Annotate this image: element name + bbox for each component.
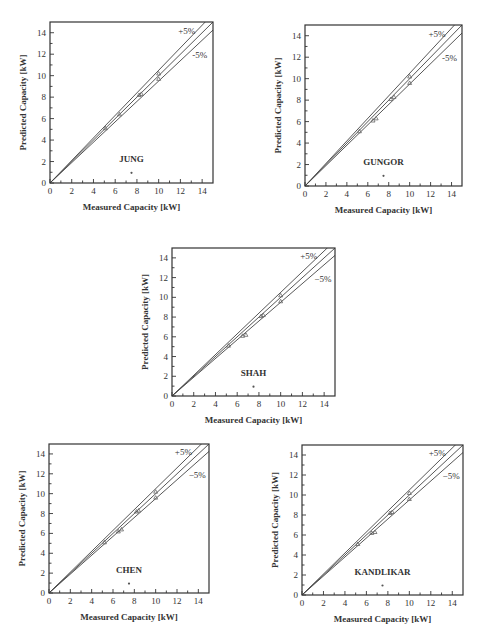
stray-point bbox=[381, 584, 383, 586]
upper-band-label: +5% bbox=[429, 448, 447, 458]
x-tick-label: 8 bbox=[386, 598, 391, 608]
x-axis-label: Measured Capacity [kW] bbox=[334, 614, 431, 624]
chart-svg: 0246810121402468101214Measured Capacity … bbox=[0, 0, 479, 638]
y-tick-label: 10 bbox=[289, 490, 299, 500]
y-tick-label: 6 bbox=[294, 530, 299, 540]
data-point bbox=[373, 530, 377, 534]
x-tick-label: 0 bbox=[300, 598, 305, 608]
chart-panel-kandlikar: 0246810121402468101214Measured Capacity … bbox=[0, 0, 479, 638]
y-tick-label: 8 bbox=[294, 510, 299, 520]
x-tick-label: 2 bbox=[321, 598, 326, 608]
data-point bbox=[390, 510, 394, 514]
x-tick-label: 12 bbox=[426, 598, 435, 608]
y-axis-label: Predicted Capacity [kW] bbox=[270, 472, 280, 568]
y-tick-label: 12 bbox=[289, 470, 298, 480]
y-tick-label: 2 bbox=[294, 570, 299, 580]
x-tick-label: 6 bbox=[364, 598, 369, 608]
x-tick-label: 10 bbox=[405, 598, 415, 608]
correlation-name: KANDLIKAR bbox=[354, 567, 411, 577]
data-point bbox=[356, 542, 360, 546]
y-tick-label: 4 bbox=[294, 550, 299, 560]
y-tick-label: 14 bbox=[289, 450, 299, 460]
x-tick-label: 14 bbox=[448, 598, 458, 608]
x-tick-label: 4 bbox=[343, 598, 348, 608]
lower-band-label: −5% bbox=[443, 471, 461, 481]
y-tick-label: 0 bbox=[294, 590, 299, 600]
